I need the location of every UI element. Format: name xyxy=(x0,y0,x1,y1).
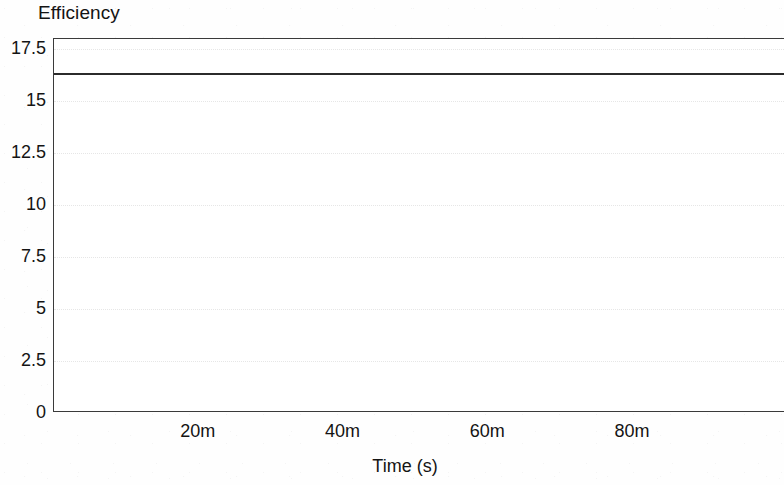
x-axis-tick-label: 80m xyxy=(614,421,649,441)
x-axis-tick-label: 60m xyxy=(470,421,505,441)
x-axis-tick-labels: 20m40m60m80m xyxy=(0,0,784,485)
efficiency-chart: Efficiency 17.51512.5107.552.50 20m40m60… xyxy=(0,0,784,485)
x-axis-tick-label: 40m xyxy=(325,421,360,441)
x-axis-tick-label: 20m xyxy=(180,421,215,441)
x-axis-title: Time (s) xyxy=(372,456,437,477)
